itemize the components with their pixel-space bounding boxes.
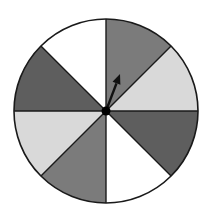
spinner-diagram (0, 0, 207, 219)
spinner-hub (102, 107, 111, 116)
